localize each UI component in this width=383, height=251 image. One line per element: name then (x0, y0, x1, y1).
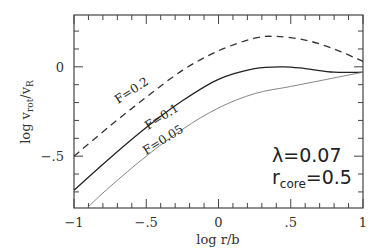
curve-label-f02: F=0.2 (112, 74, 151, 106)
lambda-annotation: λ=0.07 (272, 144, 341, 166)
x-tick-label: 0 (214, 215, 222, 230)
x-tick-label: −1 (64, 215, 83, 230)
x-tick-label: .5 (285, 215, 297, 230)
x-tick-label: 1 (359, 215, 367, 230)
x-axis-label: log r/b (196, 232, 239, 247)
x-tick-label: −.5 (135, 215, 158, 230)
y-tick-label: −.5 (41, 149, 64, 164)
y-tick-label: 0 (56, 60, 64, 75)
x-tick-labels: −1−.50.51 (64, 215, 367, 230)
rotation-curve-chart: −1−.50.51 0−.5 log r/b log vrot/vR F=0.2… (0, 0, 383, 251)
y-tick-labels: 0−.5 (41, 60, 64, 164)
y-axis-label: log vrot/vR (18, 80, 35, 144)
rcore-annotation: rcore=0.5 (272, 166, 352, 191)
